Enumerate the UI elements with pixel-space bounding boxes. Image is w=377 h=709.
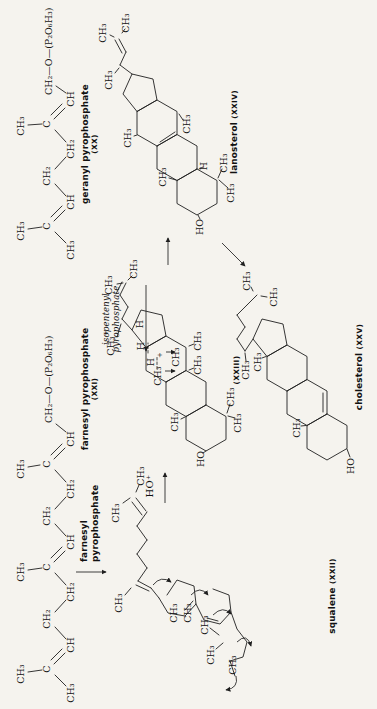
formula-text: CH₃ [15, 664, 26, 684]
formula-text: CH₃ [232, 413, 243, 433]
bond-line [28, 670, 42, 672]
formula-text: CH₃ [15, 459, 26, 479]
bond-line [51, 104, 62, 115]
ring-outline [177, 169, 217, 215]
geranyl-pyrophosphate-label: geranyl pyrophosphate (XX) [80, 82, 99, 206]
formula-text: CH₃ [110, 503, 121, 523]
bond-line [137, 540, 147, 554]
formula-text: CH₂ [41, 506, 52, 526]
ring-outline [123, 74, 157, 112]
rotated-reaction-scheme: CH₃CCH₃CHCH₂CH₂CCH₃CHCH₂—O—(P₂O₆H₃)CH₃CC… [0, 0, 377, 709]
bond-line [210, 628, 219, 635]
bond-line [216, 643, 223, 649]
formula-text: H [135, 342, 146, 350]
bond-line [55, 497, 66, 509]
bond-line [51, 547, 62, 558]
formula-text: CH₃ [168, 603, 179, 623]
formula-text: CH₃ [15, 116, 26, 136]
ring-outline [307, 414, 347, 460]
bond-line [122, 319, 132, 330]
formula-text: CH [65, 431, 76, 447]
scanned-figure-page: CH₃CCH₃CHCH₂CH₂CCH₃CHCH₂—O—(P₂O₆H₃)CH₃CC… [0, 0, 377, 709]
formula-text: CH₃ [65, 683, 76, 703]
compound-name: farnesyl pyrophosphate [80, 327, 91, 451]
compound-numeral: (XXIII) [232, 356, 241, 385]
formula-text: CH₂ [65, 582, 76, 602]
ring-outline [137, 100, 177, 146]
formula-text: CH₃ [169, 412, 180, 432]
formula-text: H [145, 358, 156, 366]
formula-text: CH₃ [218, 153, 229, 173]
formula-text: CH₂ [65, 479, 76, 499]
bond-line [347, 449, 350, 457]
formula-text: CH₃ [65, 240, 76, 260]
ring-outline [230, 612, 247, 661]
formula-text: CH₃ [227, 655, 238, 675]
bond-line [28, 465, 40, 467]
formula-text: CH₃ [199, 615, 210, 635]
formula-text: CH₃ [291, 418, 302, 438]
formula-text: CH₃ [122, 128, 133, 148]
curved-electron-arrow [191, 590, 208, 595]
formula-text: C [41, 120, 52, 127]
bond-line [237, 305, 247, 315]
formula-text: CH₃ [192, 331, 203, 351]
formula-text: CH₂—O—(P₂O₆H₃) [43, 8, 54, 95]
formula-text: CH₂—O—(P₂O₆H₃) [43, 336, 54, 423]
formula-text: C [41, 222, 52, 229]
formula-text: CH₃ [97, 23, 108, 43]
ring-outline [166, 371, 206, 417]
bond-line [136, 485, 139, 492]
formula-text: C [41, 460, 52, 467]
curved-electron-arrow [226, 676, 237, 690]
formula-text: CH₂ [65, 139, 76, 159]
arrow-label-line1: farnesyl [79, 472, 90, 562]
bond-line [54, 108, 65, 119]
formula-text: CH₃ [241, 271, 252, 291]
formula-text: C [41, 563, 52, 570]
compound-numeral: (XXV) [355, 324, 364, 350]
compound-numeral: (XXII) [328, 558, 337, 584]
reaction-scheme-svg: CH₃CCH₃CHCH₂CH₂CCH₃CHCH₂—O—(P₂O₆H₃)CH₃CC… [0, 0, 377, 709]
bond-line [120, 65, 132, 74]
formula-text: H [198, 162, 209, 170]
formula-text: CH₃ [182, 603, 193, 623]
formula-text: CH₃ [252, 352, 263, 372]
formula-text: CH [65, 637, 76, 653]
compound-numeral: (XXIV) [230, 90, 239, 119]
bond-line [134, 135, 137, 136]
compound-name: squalene [327, 587, 337, 634]
bond-line [54, 653, 65, 664]
farnesyl-pyrophosphate-label: farnesyl pyrophosphate (XXI) [80, 327, 99, 451]
bond-line [120, 52, 126, 65]
bond-line [54, 448, 65, 459]
arrow-label-line2: pyrophosphate [111, 267, 121, 371]
bond-line [54, 210, 65, 221]
formula-text: HO [345, 458, 356, 474]
bond-line [28, 568, 42, 570]
bond-line [247, 295, 257, 305]
curved-electron-arrow [153, 579, 171, 585]
formula-text: CH₃ [128, 259, 139, 279]
ring-outline [267, 345, 307, 391]
formula-text: CH₃ [192, 355, 203, 375]
bond-line [122, 307, 128, 319]
formula-text: CH₃ [170, 347, 181, 367]
formula-text: CH₃ [113, 593, 124, 613]
bond-line [123, 498, 130, 503]
formula-text: CH [65, 194, 76, 210]
bond-line [137, 512, 147, 526]
bond-line [28, 124, 42, 125]
bond-line [137, 526, 147, 540]
bond-line [137, 554, 147, 568]
bond-line [51, 649, 62, 660]
formula-text: C [41, 665, 52, 672]
bond-line [110, 35, 114, 37]
bond-line [181, 417, 185, 419]
bond-line [51, 444, 62, 455]
bond-line [151, 588, 159, 598]
formula-text: + [156, 352, 164, 358]
compound-numeral: (XXI) [91, 327, 100, 451]
ring-outline [186, 405, 226, 451]
formula-text: HO [194, 219, 205, 235]
